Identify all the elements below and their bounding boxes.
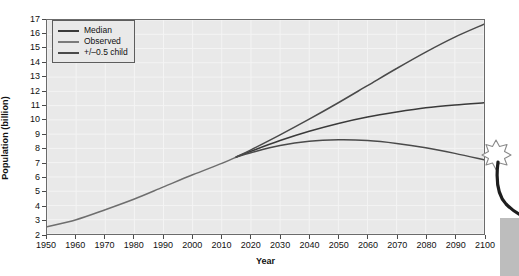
y-tick-label: 6	[35, 173, 42, 182]
x-tick-mark	[280, 235, 281, 239]
overlay-panel	[500, 218, 519, 276]
population-projection-chart: Population (billion) 2345678910111213141…	[0, 0, 519, 276]
x-tick: 2070	[387, 235, 407, 250]
x-tick-mark	[192, 235, 193, 239]
legend-item-label: Observed	[84, 37, 121, 46]
x-tick-label: 2090	[446, 241, 466, 250]
x-tick-mark	[221, 235, 222, 239]
y-tick-label: 11	[31, 101, 42, 110]
y-tick-label: 5	[35, 187, 42, 196]
x-tick-mark	[163, 235, 164, 239]
y-tick-label: 9	[35, 130, 42, 139]
y-tick-label: 17	[30, 15, 42, 24]
x-tick: 1980	[124, 235, 144, 250]
x-tick-mark	[397, 235, 398, 239]
x-tick-label: 2040	[299, 241, 319, 250]
x-tick-mark	[455, 235, 456, 239]
x-tick: 1990	[153, 235, 173, 250]
x-tick-label: 2060	[358, 241, 378, 250]
x-axis-title: Year	[46, 256, 485, 266]
series-line	[47, 157, 236, 227]
y-tick-label: 15	[30, 43, 42, 52]
x-tick-label: 2050	[329, 241, 349, 250]
series-line	[236, 103, 484, 157]
x-tick-mark	[75, 235, 76, 239]
x-tick: 2000	[182, 235, 202, 250]
x-tick: 2040	[299, 235, 319, 250]
y-tick-label: 8	[35, 144, 42, 153]
x-tick-label: 2080	[416, 241, 436, 250]
x-tick-label: 2030	[270, 241, 290, 250]
series-line	[236, 24, 484, 157]
x-tick: 1970	[95, 235, 115, 250]
y-tick-label: 10	[30, 115, 42, 124]
y-tick-label: 14	[30, 58, 42, 67]
y-tick-label: 3	[35, 216, 42, 225]
x-tick: 2050	[329, 235, 349, 250]
x-tick-label: 2070	[387, 241, 407, 250]
x-tick-mark	[367, 235, 368, 239]
y-tick-label: 12	[30, 87, 42, 96]
x-tick-label: 1990	[153, 241, 173, 250]
x-tick-label: 2020	[241, 241, 261, 250]
x-tick-mark	[104, 235, 105, 239]
x-tick: 2090	[446, 235, 466, 250]
legend-item: Observed	[58, 36, 128, 47]
legend-color-swatch	[58, 30, 79, 32]
magic-wand-overlay	[480, 138, 519, 276]
x-tick-mark	[250, 235, 251, 239]
magic-wand-icon	[497, 162, 519, 214]
x-tick: 2010	[212, 235, 232, 250]
x-tick-label: 2000	[182, 241, 202, 250]
x-tick: 1950	[36, 235, 56, 250]
x-tick-mark	[46, 235, 47, 239]
x-tick: 2060	[358, 235, 378, 250]
x-tick: 2020	[241, 235, 261, 250]
legend-color-swatch	[58, 52, 79, 54]
x-tick-label: 1970	[95, 241, 115, 250]
legend-color-swatch	[58, 41, 79, 43]
legend-item: +/–0.5 child	[58, 47, 128, 58]
x-tick-label: 1960	[65, 241, 85, 250]
chart-legend: MedianObserved+/–0.5 child	[52, 20, 135, 63]
x-tick-mark	[309, 235, 310, 239]
x-tick-mark	[133, 235, 134, 239]
x-tick-mark	[338, 235, 339, 239]
x-tick-label: 1950	[36, 241, 56, 250]
y-tick-label: 13	[30, 72, 42, 81]
x-tick-mark	[426, 235, 427, 239]
legend-item-label: +/–0.5 child	[84, 48, 128, 57]
legend-item-label: Median	[84, 26, 112, 35]
y-tick-label: 7	[35, 159, 42, 168]
y-tick-label: 4	[35, 202, 42, 211]
x-tick-label: 1980	[124, 241, 144, 250]
x-tick-label: 2010	[212, 241, 232, 250]
y-axis-ticks: 234567891011121314151617	[0, 19, 46, 235]
x-tick: 2080	[416, 235, 436, 250]
legend-item: Median	[58, 25, 128, 36]
x-tick: 2030	[270, 235, 290, 250]
y-tick-label: 16	[30, 29, 42, 38]
x-tick: 1960	[65, 235, 85, 250]
